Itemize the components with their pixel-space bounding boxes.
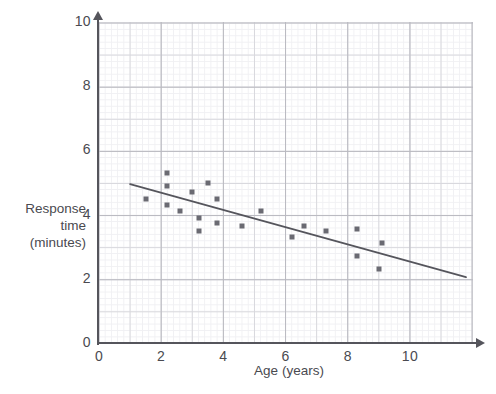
data-point: [215, 196, 220, 201]
data-point: [324, 228, 329, 233]
y-tick-label-8: 8: [65, 77, 91, 93]
graph-paper-grid: [99, 22, 473, 343]
x-tick-label-2: 2: [148, 348, 174, 364]
data-point: [196, 215, 201, 220]
x-axis-line: [97, 342, 479, 344]
data-point: [215, 220, 220, 225]
x-tick-label-4: 4: [210, 348, 236, 364]
data-point: [165, 183, 170, 188]
data-point: [289, 235, 294, 240]
x-tick-label-8: 8: [335, 348, 361, 364]
x-axis-arrow-icon: [476, 338, 485, 348]
data-point: [380, 241, 385, 246]
data-point: [240, 223, 245, 228]
data-point: [302, 223, 307, 228]
data-point: [177, 209, 182, 214]
y-tick-label-6: 6: [65, 141, 91, 157]
data-point: [196, 228, 201, 233]
data-point: [190, 190, 195, 195]
data-point: [376, 267, 381, 272]
y-axis-title: Response time (minutes): [6, 200, 86, 251]
data-point: [143, 196, 148, 201]
x-tick-label-6: 6: [273, 348, 299, 364]
data-point: [355, 227, 360, 232]
scatter-plot-figure: 1086420 0246810 Response time (minutes) …: [0, 0, 496, 394]
y-axis-title-line-3: (minutes): [6, 234, 86, 251]
data-point: [165, 170, 170, 175]
x-axis-title: Age (years): [199, 363, 379, 378]
x-tick-label-0: 0: [86, 348, 112, 364]
data-point: [165, 202, 170, 207]
y-tick-label-10: 10: [65, 13, 91, 29]
data-point: [355, 254, 360, 259]
y-axis-title-line-2: time: [6, 217, 86, 234]
y-tick-label-2: 2: [65, 270, 91, 286]
y-axis-title-line-1: Response: [6, 200, 86, 217]
data-point: [258, 209, 263, 214]
y-axis-arrow-icon: [93, 11, 103, 20]
y-axis-line: [97, 18, 99, 345]
data-point: [205, 180, 210, 185]
x-tick-label-10: 10: [397, 348, 423, 364]
